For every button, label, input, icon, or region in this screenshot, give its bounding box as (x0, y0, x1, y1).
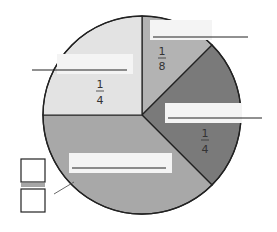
pointer-line (54, 182, 74, 194)
denominator-input-box[interactable] (21, 189, 45, 212)
svg-text:1: 1 (202, 127, 209, 140)
pie-chart: 1 8 1 4 1 4 (0, 0, 277, 232)
numerator-input-box[interactable] (21, 159, 45, 182)
svg-text:1: 1 (97, 78, 104, 91)
svg-text:4: 4 (97, 94, 104, 107)
svg-text:4: 4 (202, 143, 209, 156)
answer-box-bottom[interactable] (69, 153, 172, 173)
answer-box-right[interactable] (165, 103, 242, 123)
svg-text:1: 1 (159, 45, 166, 58)
answer-box-left[interactable] (57, 54, 133, 74)
svg-text:8: 8 (159, 60, 166, 73)
